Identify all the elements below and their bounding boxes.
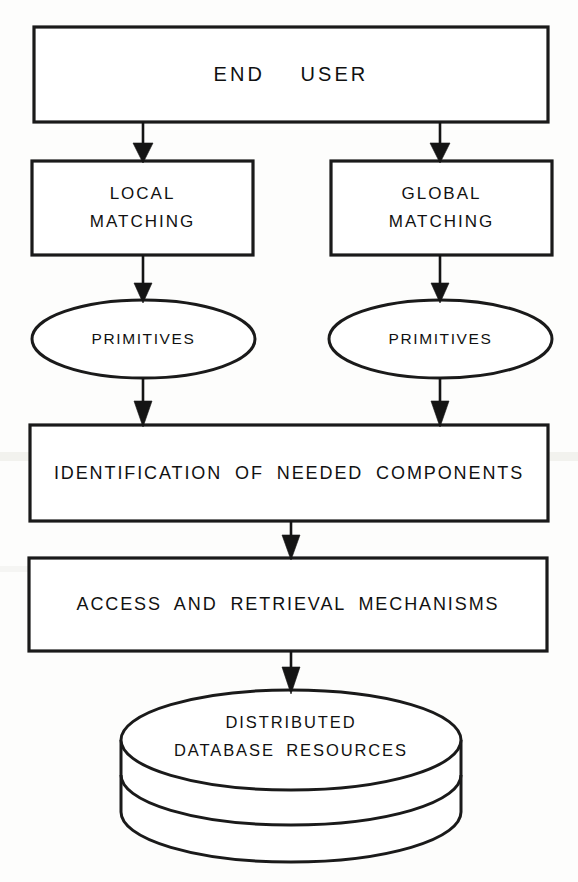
arrowhead-down-icon: [282, 535, 300, 560]
flowchart-canvas: [0, 0, 578, 882]
edge-primitives-right-to-identification: [431, 378, 449, 427]
node-local-matching[interactable]: [32, 161, 253, 255]
node-database-top[interactable]: [121, 690, 461, 790]
edge-global-matching-to-primitives-right: [431, 255, 449, 303]
node-end-user[interactable]: [34, 27, 548, 122]
edge-primitives-left-to-identification: [134, 378, 152, 427]
edge-end-user-to-global-matching: [430, 122, 450, 163]
node-access-retrieval[interactable]: [29, 558, 547, 651]
edge-end-user-to-local-matching: [133, 122, 153, 163]
arrowhead-down-icon: [134, 401, 152, 427]
edge-local-matching-to-primitives-left: [134, 255, 152, 303]
node-primitives-left[interactable]: [32, 300, 255, 378]
edge-identification-to-access-retrieval: [282, 521, 300, 560]
edge-access-retrieval-to-database: [282, 651, 300, 694]
arrowhead-down-icon: [431, 401, 449, 427]
flowchart-diagram: END USER LOCAL MATCHING GLOBAL MATCHING …: [0, 0, 578, 882]
node-primitives-right[interactable]: [329, 300, 552, 378]
node-identification[interactable]: [30, 425, 548, 521]
node-global-matching[interactable]: [331, 161, 552, 255]
